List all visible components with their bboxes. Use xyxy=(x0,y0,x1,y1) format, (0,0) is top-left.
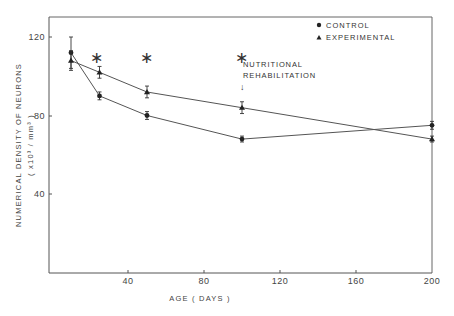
x-tick-label: 200 xyxy=(424,276,441,286)
x-tick-label: 120 xyxy=(272,276,289,286)
series-control xyxy=(69,37,435,142)
legend-experimental-label: EXPERIMENTAL xyxy=(326,33,395,42)
x-tick-label: 160 xyxy=(348,276,365,286)
legend-control-label: CONTROL xyxy=(326,21,370,30)
x-tick-label: 40 xyxy=(122,276,133,286)
circle-marker-icon xyxy=(97,93,102,98)
y-axis-units: ( x10³ / mm³ ) xyxy=(26,114,35,176)
y-axis-label: NUMERICAL DENSITY OF NEURONS xyxy=(14,63,23,227)
y-tick-label: 40 xyxy=(34,189,45,199)
asterisk-icon: ∗ xyxy=(90,49,104,66)
asterisk-icon: ∗ xyxy=(140,49,154,66)
x-tick-label: 80 xyxy=(198,276,209,286)
figure-caption-fragment xyxy=(16,309,446,316)
circle-marker-icon xyxy=(430,123,435,128)
chart: 120 80 40 40 80 120 160 200 AGE ( DAYS )… xyxy=(0,0,454,316)
circle-marker-icon xyxy=(240,137,245,142)
triangle-marker-icon xyxy=(68,58,74,63)
legend: CONTROL EXPERIMENTAL xyxy=(317,21,396,42)
down-arrow-icon: ↓ xyxy=(240,82,245,92)
y-tick-label: 80 xyxy=(34,111,45,121)
x-axis-label: AGE ( DAYS ) xyxy=(169,294,230,303)
rehabilitation-annotation: NUTRITIONAL REHABILITATION ↓ xyxy=(240,60,316,92)
circle-marker-icon xyxy=(317,23,321,27)
annotation-line2: REHABILITATION xyxy=(243,71,316,80)
series-layer xyxy=(68,37,435,142)
y-tick-label: 120 xyxy=(28,32,45,42)
circle-marker-icon xyxy=(145,113,150,118)
x-ticks: 40 80 120 160 200 xyxy=(122,270,440,286)
triangle-marker-icon xyxy=(317,35,322,40)
significance-markers: ∗ ∗ ∗ xyxy=(90,49,249,66)
annotation-line1: NUTRITIONAL xyxy=(243,60,303,69)
